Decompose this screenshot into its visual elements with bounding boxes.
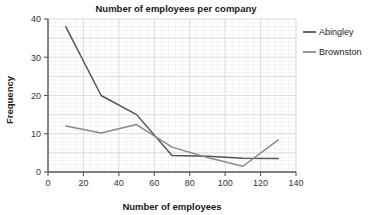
y-tick-label: 40 bbox=[31, 14, 41, 24]
legend-label-abingley: Abingley bbox=[319, 27, 354, 37]
x-axis-title: Number of employees bbox=[122, 201, 221, 212]
chart-legend: AbingleyBrownston bbox=[303, 27, 362, 57]
x-tick-label: 140 bbox=[288, 178, 303, 188]
x-tick-label: 40 bbox=[114, 178, 124, 188]
grid-lines bbox=[48, 19, 296, 172]
tick-labels: 020406080100120140010203040 bbox=[31, 14, 304, 188]
x-tick-label: 0 bbox=[45, 178, 50, 188]
legend-label-brownston: Brownston bbox=[319, 47, 362, 57]
chart-container: 020406080100120140010203040 Number of em… bbox=[0, 0, 386, 215]
x-tick-label: 80 bbox=[185, 178, 195, 188]
y-axis-title: Frequency bbox=[4, 75, 15, 124]
chart-title: Number of employees per company bbox=[95, 3, 257, 14]
x-tick-label: 20 bbox=[78, 178, 88, 188]
line-chart: 020406080100120140010203040 Number of em… bbox=[0, 0, 386, 215]
y-tick-label: 10 bbox=[31, 129, 41, 139]
x-tick-label: 120 bbox=[253, 178, 268, 188]
x-tick-label: 60 bbox=[149, 178, 159, 188]
y-tick-label: 20 bbox=[31, 91, 41, 101]
y-tick-label: 0 bbox=[36, 167, 41, 177]
y-tick-label: 30 bbox=[31, 53, 41, 63]
x-tick-label: 100 bbox=[218, 178, 233, 188]
